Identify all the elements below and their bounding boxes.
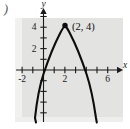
vertex-point-marker bbox=[62, 23, 67, 28]
x-tick-label-6: 6 bbox=[105, 74, 110, 84]
graph-screenshot: ) bbox=[0, 0, 130, 129]
y-axis-arrowhead bbox=[40, 8, 46, 14]
y-axis-label: y bbox=[40, 0, 46, 9]
x-axis-label: x bbox=[122, 60, 128, 70]
y-tick-label-2: 2 bbox=[32, 44, 37, 54]
y-tick-label-4: 4 bbox=[32, 22, 37, 32]
x-tick-label-neg2: -2 bbox=[18, 74, 26, 84]
coordinate-graph: -2 2 6 2 4 x y (2, 4) bbox=[0, 0, 130, 129]
x-tick-label-2: 2 bbox=[63, 74, 68, 84]
vertex-point-label: (2, 4) bbox=[72, 21, 95, 33]
